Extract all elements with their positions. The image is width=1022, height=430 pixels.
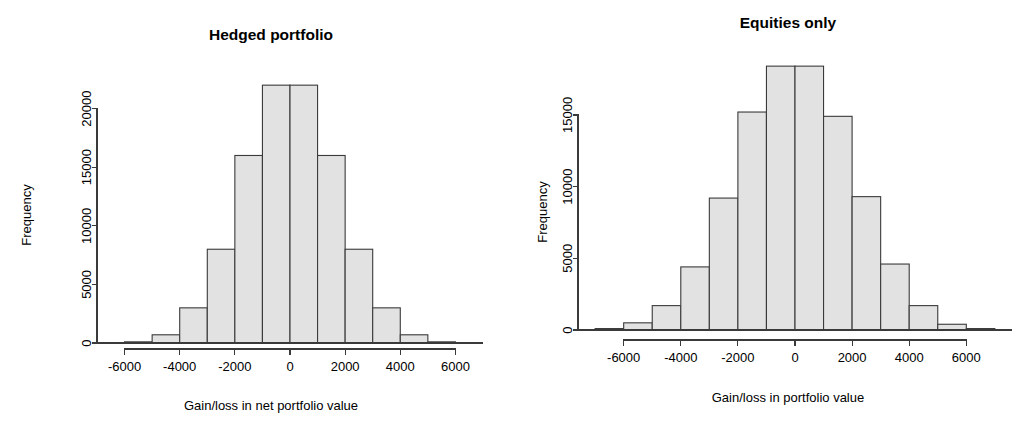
histogram-bar [681,267,710,330]
x-axis-title: Gain/loss in portfolio value [712,390,864,405]
plot-area-right: 050001000015000-6000-4000-20000200040006… [560,66,1012,365]
histogram-bar [180,308,208,343]
x-tick-label: 2000 [331,359,360,374]
y-tick-label: 15000 [560,97,575,133]
y-axis-title: Frequency [535,181,550,243]
histogram-bar [262,85,290,343]
x-tick-label: -6000 [108,359,141,374]
x-tick-label: 0 [286,359,293,374]
histogram-bar [318,155,346,343]
histogram-bar [909,306,938,330]
y-axis [573,115,578,330]
chart-title: Hedged portfolio [209,26,333,43]
x-tick-label: -4000 [664,350,697,365]
x-axis [624,340,967,346]
x-tick-label: -2000 [218,359,251,374]
x-tick-label: -6000 [607,350,640,365]
histogram-bar [938,324,967,330]
histogram-bar [652,306,681,330]
histogram-bar [152,335,180,343]
x-tick-label: 2000 [838,350,867,365]
x-tick-label: 4000 [386,359,415,374]
y-tick-label: 5000 [560,244,575,273]
histogram-bar [881,264,910,330]
x-tick-label: 0 [791,350,798,365]
histogram-bar [207,249,235,343]
histogram-bar [824,116,853,330]
y-tick-label: 20000 [79,91,94,127]
panel-hedged-portfolio: Hedged portfolio 05000100001500020000-60… [0,0,511,430]
chart-hedged-portfolio: Hedged portfolio 05000100001500020000-60… [0,0,511,430]
bars-group [595,66,995,330]
bars-group [125,85,456,343]
histogram-bar [738,112,767,330]
histogram-bar [624,323,653,330]
x-axis [125,349,456,355]
y-tick-label: 0 [79,339,94,346]
histogram-bar [400,335,428,343]
histogram-bar [235,155,263,343]
y-tick-label: 0 [560,326,575,333]
histogram-figure: Hedged portfolio 05000100001500020000-60… [0,0,1022,430]
chart-title: Equities only [740,14,837,31]
histogram-bar [709,198,738,330]
histogram-bar [290,85,318,343]
histogram-bar [373,308,401,343]
histogram-bar [852,197,881,330]
y-tick-label: 10000 [560,169,575,205]
y-tick-label: 10000 [79,208,94,244]
panel-equities-only: Equities only 050001000015000-6000-4000-… [511,0,1022,430]
y-axis-title: Frequency [19,184,34,246]
y-tick-label: 5000 [79,270,94,299]
x-tick-label: -2000 [721,350,754,365]
histogram-bar [345,249,373,343]
histogram-bar [766,66,795,330]
x-tick-label: 6000 [952,350,981,365]
plot-area-left: 05000100001500020000-6000-4000-200002000… [79,85,483,374]
chart-equities-only: Equities only 050001000015000-6000-4000-… [511,0,1022,430]
x-tick-label: -4000 [163,359,196,374]
y-tick-label: 15000 [79,149,94,185]
x-tick-label: 4000 [895,350,924,365]
x-axis-title: Gain/loss in net portfolio value [184,398,358,413]
histogram-bar [795,66,824,330]
x-tick-label: 6000 [441,359,470,374]
